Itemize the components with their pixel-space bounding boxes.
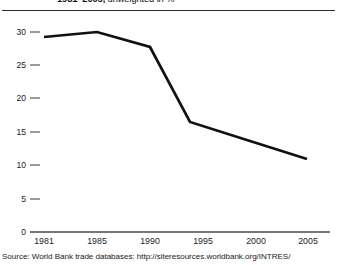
x-tick-label-1990: 1990 (130, 236, 170, 246)
y-tick-label-10: 10 (4, 160, 26, 170)
x-tick-label-1985: 1985 (77, 236, 117, 246)
y-tick-label-0: 0 (4, 227, 26, 237)
y-tick-label-30: 30 (4, 27, 26, 37)
plot-area: 30 25 20 15 10 5 0 1981 1985 1990 1995 2… (0, 0, 337, 246)
x-tick-label-2000: 2000 (236, 236, 276, 246)
y-axis-ticks (30, 32, 40, 199)
x-tick-label-1995: 1995 (183, 236, 223, 246)
x-tick-label-2005: 2005 (288, 236, 328, 246)
source-note: Source: World Bank trade databases: http… (2, 252, 290, 261)
y-tick-label-5: 5 (4, 194, 26, 204)
y-tick-label-20: 20 (4, 93, 26, 103)
x-tick-label-1981: 1981 (24, 236, 64, 246)
y-tick-label-25: 25 (4, 60, 26, 70)
y-tick-label-15: 15 (4, 127, 26, 137)
data-line-tariff-rate (44, 32, 307, 159)
figure-container: 1981–2005, unweighted in % 30 25 20 15 1… (0, 0, 337, 265)
